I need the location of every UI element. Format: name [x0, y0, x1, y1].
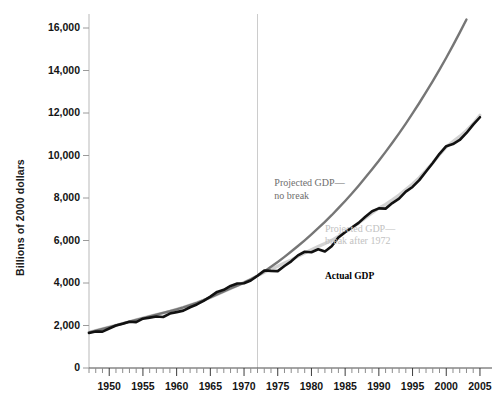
y-axis-tick-label: 2,000	[18, 319, 80, 331]
y-axis-tick-label: 12,000	[18, 106, 80, 118]
label-projected-no-break: Projected GDP—no break	[274, 177, 344, 202]
series-line	[89, 115, 480, 332]
y-axis-tick-label: 8,000	[18, 191, 80, 203]
y-axis-tick-label: 0	[18, 361, 80, 373]
gdp-chart: Billions of 2000 dollars 02,0004,0006,00…	[0, 0, 497, 414]
label-actual-gdp: Actual GDP	[325, 270, 374, 283]
y-axis-tick-label: 10,000	[18, 149, 80, 161]
label-projected-break: Projected GDP—break after 1972	[325, 223, 395, 248]
chart-plot-area	[0, 0, 497, 414]
y-axis-tick-label: 14,000	[18, 64, 80, 76]
y-axis-tick-label: 6,000	[18, 234, 80, 246]
series-line	[89, 117, 480, 333]
y-axis-tick-label: 16,000	[18, 21, 80, 33]
series-line	[89, 20, 466, 333]
y-axis-tick-label: 4,000	[18, 276, 80, 288]
x-axis-tick-label: 2005	[456, 380, 497, 392]
